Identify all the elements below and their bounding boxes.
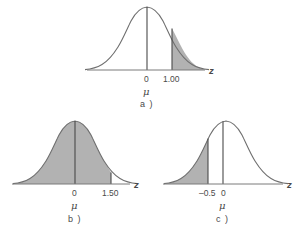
axis-label-b: z: [134, 180, 139, 189]
panel-a-plot: [78, 4, 218, 84]
mean-symbol-b: μ: [71, 201, 78, 210]
normal-curves-figure: z 0 1.00 μ a ) z 0 1.50 μ b ): [0, 0, 301, 236]
panel-c: z –0.5 0 μ c ): [155, 118, 299, 230]
tick-label-c-cut: –0.5: [199, 189, 216, 198]
panel-caption-c: c ): [216, 215, 229, 224]
shaded-area-c: [164, 139, 208, 185]
axis-label-c: z: [287, 180, 292, 189]
panel-caption-a: a ): [140, 100, 154, 109]
tick-label-a-mean: 0: [144, 75, 149, 84]
tick-label-b-mean: 0: [72, 189, 77, 198]
panel-caption-b: b ): [68, 215, 82, 224]
tick-label-b-cut: 1.50: [102, 189, 119, 198]
mean-symbol-a: μ: [143, 87, 150, 96]
mean-symbol-c: μ: [219, 201, 226, 210]
tick-label-a-cut: 1.00: [163, 75, 180, 84]
axis-label-a: z: [209, 66, 214, 75]
panel-b: z 0 1.50 μ b ): [4, 118, 144, 230]
panel-c-plot: [155, 118, 299, 198]
panel-b-plot: [4, 118, 144, 198]
normal-curve-c: [164, 121, 288, 184]
tick-label-c-mean: 0: [221, 189, 226, 198]
panel-a: z 0 1.00 μ a ): [78, 4, 218, 109]
